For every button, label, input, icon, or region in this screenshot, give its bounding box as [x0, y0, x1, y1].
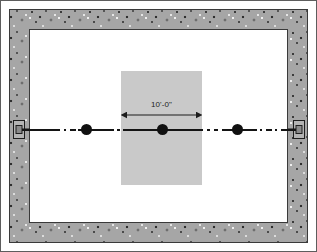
dimension-annotation: 10'-0" [121, 100, 202, 122]
column-node-center-dot [157, 124, 168, 135]
dimension-label-text: 10'-0" [121, 100, 202, 110]
column-node-left-dot [81, 124, 92, 135]
wall-bearing-anchor-right [288, 120, 305, 139]
floor-plan-figure: 10'-0" [0, 0, 317, 252]
centerline-segment-far-dash [257, 129, 281, 131]
column-node-right-dot [232, 124, 243, 135]
bearing-anchor-right-icon [288, 120, 305, 139]
dimension-arrow-line [121, 110, 202, 120]
centerline-segment-right-dash [199, 129, 225, 131]
bearing-anchor-left-icon [13, 120, 30, 139]
wall-bearing-anchor-left [13, 120, 30, 139]
centerline-segment-left-dash [54, 129, 78, 131]
centerline-segment-mid-dash [114, 129, 126, 131]
